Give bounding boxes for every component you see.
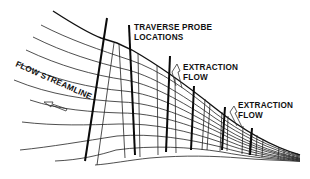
flow-streamline-label: FLOW STREAMLINE [14, 60, 93, 102]
traverse-probe-label: TRAVERSE PROBE [134, 23, 213, 32]
station-line [157, 65, 158, 155]
streamline-8 [20, 135, 300, 160]
station-line [227, 116, 228, 151]
streamline-7 [22, 122, 300, 160]
station-line [119, 44, 125, 158]
flow-direction-arrow-icon [44, 102, 67, 111]
extraction-flow-2-label: EXTRACTION [238, 101, 293, 110]
extraction-flow-2-sublabel: FLOW [238, 111, 263, 120]
extraction-flow-1-label: EXTRACTION [183, 63, 238, 72]
station-line [138, 53, 140, 157]
station-line [175, 78, 176, 153]
flow-streamline-diagram: TRAVERSE PROBE LOCATIONS EXTRACTION FLOW… [0, 0, 310, 179]
traverse-locations-label: LOCATIONS [134, 33, 184, 42]
extraction-flow-1-sublabel: FLOW [183, 73, 208, 82]
